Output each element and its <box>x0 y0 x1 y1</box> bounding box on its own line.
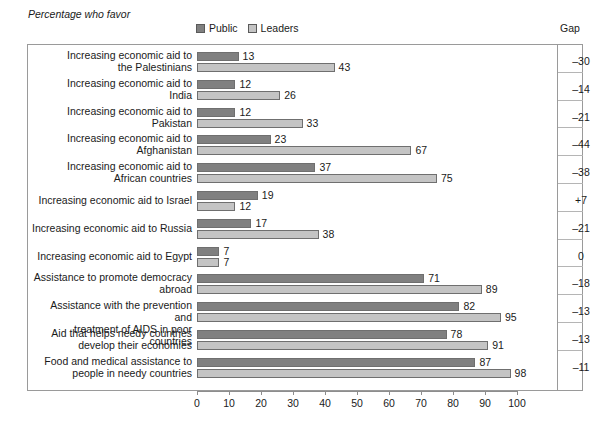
category-label-line: Aid that helps needy countries <box>30 327 192 339</box>
gap-row-divider <box>558 211 583 212</box>
category-label: Increasing economic aid toAfrican countr… <box>30 160 192 184</box>
x-axis-tick <box>389 391 390 395</box>
gap-row-divider <box>558 322 583 323</box>
gap-row-divider <box>558 72 583 73</box>
bar-value-leaders: 95 <box>505 311 517 323</box>
category-label: Increasing economic aid tothe Palestinia… <box>30 49 192 73</box>
gap-value: –18 <box>558 277 604 289</box>
x-axis-tick <box>293 391 294 395</box>
bar-public <box>197 52 239 61</box>
category-label-line: African countries <box>30 172 192 184</box>
bar-leaders <box>197 341 488 350</box>
bar-value-public: 82 <box>463 300 475 312</box>
bar-value-public: 71 <box>428 272 440 284</box>
bar-leaders <box>197 146 411 155</box>
category-label-line: Increasing economic aid to <box>30 132 192 144</box>
gap-row-divider <box>558 266 583 267</box>
bar-value-leaders: 89 <box>486 283 498 295</box>
category-label: Increasing economic aid to Israel <box>30 194 192 206</box>
category-label-line: Increasing economic aid to Russia <box>30 222 192 234</box>
gap-value: +7 <box>558 194 604 206</box>
bar-public <box>197 274 424 283</box>
category-label-line: Assistance to promote democracy <box>30 271 192 283</box>
gap-value: –11 <box>558 361 604 373</box>
x-axis: 0102030405060708090100 <box>197 391 517 392</box>
category-label-line: Assistance with the prevention and <box>30 299 192 323</box>
gap-value: 0 <box>558 250 604 262</box>
gap-value: –13 <box>558 305 604 317</box>
bar-value-leaders: 98 <box>515 367 527 379</box>
x-axis-tick-label: 60 <box>374 397 404 409</box>
category-label: Increasing economic aid toIndia <box>30 77 192 101</box>
category-label: Assistance to promote democracyabroad <box>30 271 192 295</box>
bar-leaders <box>197 91 280 100</box>
category-label-line: Afghanistan <box>30 144 192 156</box>
category-label-line: people in needy countries <box>30 367 192 379</box>
bar-value-leaders: 38 <box>323 228 335 240</box>
bar-public <box>197 330 447 339</box>
bar-value-leaders: 43 <box>339 61 351 73</box>
gap-value: –30 <box>558 55 604 67</box>
category-label: Increasing economic aid toAfghanistan <box>30 132 192 156</box>
category-label-line: Increasing economic aid to <box>30 77 192 89</box>
bar-value-leaders: 33 <box>307 117 319 129</box>
gap-row-divider <box>558 239 583 240</box>
category-label-line: India <box>30 89 192 101</box>
category-label-line: abroad <box>30 283 192 295</box>
bar-value-public: 12 <box>239 78 251 90</box>
bar-value-public: 37 <box>319 161 331 173</box>
x-axis-tick <box>325 391 326 395</box>
x-axis-tick-label: 0 <box>182 397 212 409</box>
x-axis-tick <box>357 391 358 395</box>
category-label-line: Increasing economic aid to Egypt <box>30 250 192 262</box>
bar-value-leaders: 75 <box>441 172 453 184</box>
gap-row-divider <box>558 294 583 295</box>
x-axis-tick <box>261 391 262 395</box>
gap-row-divider <box>558 100 583 101</box>
bar-value-leaders: 26 <box>284 89 296 101</box>
x-axis-tick-label: 30 <box>278 397 308 409</box>
category-label: Increasing economic aid to Russia <box>30 222 192 234</box>
category-label: Aid that helps needy countriesdevelop th… <box>30 327 192 351</box>
bar-value-public: 12 <box>239 106 251 118</box>
x-axis-tick-label: 50 <box>342 397 372 409</box>
category-label-line: the Palestinians <box>30 61 192 73</box>
bar-value-leaders: 91 <box>492 339 504 351</box>
gap-row-divider <box>558 350 583 351</box>
bar-leaders <box>197 258 219 267</box>
bar-value-public: 87 <box>479 356 491 368</box>
x-axis-tick-label: 20 <box>246 397 276 409</box>
gap-value: –44 <box>558 138 604 150</box>
gap-value: –13 <box>558 333 604 345</box>
bar-value-public: 13 <box>243 50 255 62</box>
category-label-line: Increasing economic aid to <box>30 49 192 61</box>
x-axis-tick <box>517 391 518 395</box>
bar-value-public: 19 <box>262 189 274 201</box>
gap-value: –38 <box>558 166 604 178</box>
bar-public <box>197 191 258 200</box>
bar-public <box>197 108 235 117</box>
category-label: Increasing economic aid toPakistan <box>30 105 192 129</box>
category-label-line: Pakistan <box>30 117 192 129</box>
bar-public <box>197 302 459 311</box>
category-label-line: Increasing economic aid to Israel <box>30 194 192 206</box>
x-axis-tick <box>421 391 422 395</box>
category-label-line: Increasing economic aid to <box>30 160 192 172</box>
bar-value-leaders: 67 <box>415 144 427 156</box>
bar-public <box>197 135 271 144</box>
bar-leaders <box>197 174 437 183</box>
bar-leaders <box>197 230 319 239</box>
bar-public <box>197 219 251 228</box>
bar-leaders <box>197 202 235 211</box>
x-axis-tick <box>197 391 198 395</box>
x-axis-tick-label: 90 <box>470 397 500 409</box>
chart-rows: Increasing economic aid tothe Palestinia… <box>0 0 610 421</box>
gap-value: –21 <box>558 111 604 123</box>
bar-value-leaders: 12 <box>239 200 251 212</box>
category-label: Increasing economic aid to Egypt <box>30 250 192 262</box>
bar-public <box>197 358 475 367</box>
category-label: Food and medical assistance topeople in … <box>30 355 192 379</box>
x-axis-tick <box>229 391 230 395</box>
bar-leaders <box>197 63 335 72</box>
gap-value: –14 <box>558 83 604 95</box>
